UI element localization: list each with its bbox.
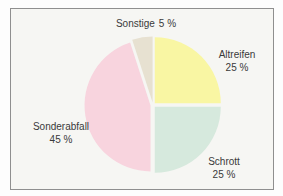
slice-label-schrott: Schrott 25 % <box>208 155 240 181</box>
slice-value-sonderabfall: 45 % <box>33 133 89 146</box>
slice-label-altreifen: Altreifen 25 % <box>219 48 256 74</box>
slice-label-sonderabfall: Sonderabfall 45 % <box>33 120 89 146</box>
pie-slice-altreifen <box>155 37 221 103</box>
slice-name-altreifen: Altreifen <box>219 48 256 61</box>
slice-name-schrott: Schrott <box>208 155 240 168</box>
slice-value-sonstige: 5 % <box>159 18 176 29</box>
slice-name-sonderabfall: Sonderabfall <box>33 120 89 133</box>
slice-value-altreifen: 25 % <box>219 61 256 74</box>
slice-label-sonstige: Sonstige5 % <box>116 17 176 30</box>
slice-value-schrott: 25 % <box>208 168 240 181</box>
slice-name-sonstige: Sonstige <box>116 18 155 29</box>
